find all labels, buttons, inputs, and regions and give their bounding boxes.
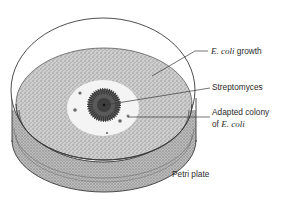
streptomyces-colony: [88, 89, 120, 121]
label-adapted-colony-line2: of E. coli: [212, 119, 245, 129]
label-adapted-colony-line1: Adapted colony: [212, 107, 269, 117]
petri-dish-illustration: [0, 0, 291, 201]
label-petri-plate: Petri plate: [172, 169, 209, 179]
label-streptomyces: Streptomyces: [212, 82, 263, 92]
petri-dish-diagram: E. coli growth Streptomyces Adapted colo…: [0, 0, 291, 201]
label-ecoli-growth: E. coli growth: [211, 46, 262, 56]
